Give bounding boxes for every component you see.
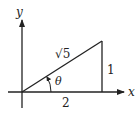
x-axis-label: x bbox=[128, 85, 135, 99]
y-axis-label: y bbox=[15, 5, 23, 19]
hypotenuse-label: √5 bbox=[55, 47, 70, 61]
angle-label: θ bbox=[55, 75, 62, 88]
right-triangle-diagram: y x √5 1 2 θ bbox=[0, 0, 139, 125]
vertical-leg-label: 1 bbox=[107, 63, 115, 77]
angle-arc bbox=[47, 77, 51, 92]
horizontal-leg-label: 2 bbox=[62, 96, 70, 110]
